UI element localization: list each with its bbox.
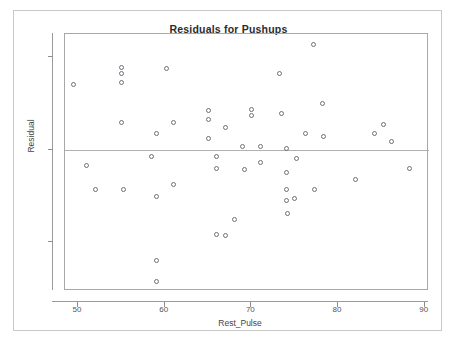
scatter-point — [164, 66, 169, 71]
x-axis-tick-mark — [424, 302, 425, 307]
scatter-point — [321, 134, 326, 139]
scatter-point — [149, 154, 154, 159]
y-axis-tick-mark — [48, 149, 53, 150]
scatter-point — [292, 196, 297, 201]
scatter-point — [320, 101, 325, 106]
scatter-point — [407, 166, 412, 171]
scatter-point — [119, 120, 124, 125]
scatter-point — [294, 156, 299, 161]
scatter-point — [372, 131, 377, 136]
scatter-point — [284, 170, 289, 175]
scatter-points-layer — [65, 34, 427, 289]
y-axis-line — [52, 33, 53, 290]
x-axis-line — [52, 301, 428, 302]
scatter-point — [285, 211, 290, 216]
scatter-point — [119, 65, 124, 70]
scatter-point — [389, 139, 394, 144]
scatter-point — [381, 122, 386, 127]
scatter-point — [303, 131, 308, 136]
scatter-point — [214, 232, 219, 237]
scatter-point — [154, 279, 159, 284]
scatter-point — [206, 117, 211, 122]
scatter-point — [171, 120, 176, 125]
scatter-point — [84, 163, 89, 168]
scatter-point — [284, 187, 289, 192]
scatter-point — [279, 111, 284, 116]
x-axis-title: Rest_Pulse — [52, 318, 428, 328]
scatter-point — [284, 146, 289, 151]
scatter-point — [240, 144, 245, 149]
scatter-point — [223, 233, 228, 238]
scatter-point — [206, 108, 211, 113]
scatter-point — [249, 107, 254, 112]
x-axis-tick-mark — [250, 302, 251, 307]
scatter-point — [249, 113, 254, 118]
scatter-point — [154, 258, 159, 263]
scatter-point — [214, 166, 219, 171]
scatter-point — [311, 42, 316, 47]
y-axis-tick-mark — [48, 56, 53, 57]
scatter-point — [93, 187, 98, 192]
scatter-point — [232, 217, 237, 222]
x-axis-tick-mark — [164, 302, 165, 307]
y-axis-title: Residual — [26, 106, 36, 166]
scatter-point — [258, 144, 263, 149]
y-axis-tick-mark — [48, 241, 53, 242]
scatter-point — [223, 125, 228, 130]
scatter-point — [214, 154, 219, 159]
scatter-point — [71, 82, 76, 87]
scatter-point — [119, 71, 124, 76]
scatter-point — [242, 167, 247, 172]
scatter-point — [258, 160, 263, 165]
scatter-point — [312, 187, 317, 192]
plot-area — [64, 33, 428, 290]
scatter-point — [206, 136, 211, 141]
scatter-point — [353, 177, 358, 182]
scatter-point — [119, 80, 124, 85]
chart-figure: Residuals for Pushups 200-20 5060708090 … — [13, 10, 442, 331]
scatter-point — [277, 71, 282, 76]
x-axis-tick-mark — [77, 302, 78, 307]
scatter-point — [154, 131, 159, 136]
scatter-point — [171, 182, 176, 187]
scatter-point — [284, 198, 289, 203]
scatter-point — [154, 194, 159, 199]
x-axis-tick-mark — [337, 302, 338, 307]
scatter-point — [121, 187, 126, 192]
